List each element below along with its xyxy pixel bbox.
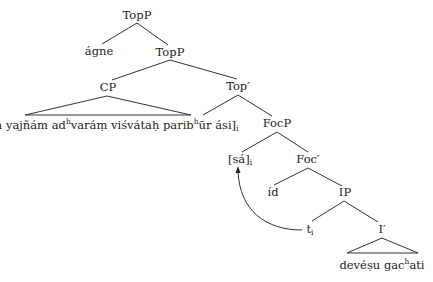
tree-edges: [0, 0, 433, 282]
edge-focp-sa: [242, 132, 277, 152]
edge-topbar-cpcontent: [203, 95, 238, 115]
edge-focp-focbar: [277, 132, 308, 152]
node-ip: IP: [339, 187, 351, 199]
node-id: íd: [267, 187, 278, 199]
arrowhead-icon: [236, 166, 241, 173]
cp-content-index: i: [236, 124, 238, 133]
node-sa: [sá]i: [228, 154, 252, 167]
edge-focbar-id: [274, 168, 308, 185]
edge-topp-agne: [102, 23, 137, 44]
sa-text: [sá]: [228, 152, 250, 166]
node-agne: ágne: [85, 46, 113, 58]
node-top-bar: Top′: [226, 81, 250, 93]
ibar-triangle: [347, 238, 418, 253]
movement-arrow: [238, 172, 302, 230]
edge-topp-cp: [112, 60, 170, 80]
edge-topp-topbar: [170, 60, 237, 79]
syntax-tree-diagram: TopP ágne TopP CP [yáṃ yajñám adhvaráṃ v…: [0, 0, 433, 282]
edge-focbar-ip: [308, 168, 342, 186]
edge-topbar-focp: [238, 95, 272, 116]
node-topp-inner: TopP: [156, 47, 185, 59]
edge-ip-trace: [312, 201, 344, 221]
edge-topp-topp: [137, 23, 168, 45]
node-focp: FocP: [263, 118, 291, 130]
i-content-part: devéṣu gac: [339, 258, 404, 272]
node-foc-bar: Foc′: [296, 154, 319, 166]
i-content-part: ati: [409, 258, 424, 272]
node-i-bar: I′: [378, 224, 385, 236]
node-trace: ti: [306, 224, 313, 237]
node-topp-root: TopP: [123, 10, 152, 22]
edge-ip-ibar: [344, 201, 378, 222]
node-cp: CP: [100, 82, 117, 94]
node-cp-content: [yáṃ yajñám adhvaráṃ viśvátaḥ paribhūr á…: [0, 118, 238, 133]
cp-content-part: ūr ási]: [199, 118, 236, 132]
cp-triangle: [25, 96, 191, 115]
cp-content-part: varáṃ viśvátaḥ parib: [71, 118, 194, 132]
trace-index: i: [311, 228, 313, 237]
sa-index: i: [250, 158, 252, 167]
node-i-content: devéṣu gachati: [339, 258, 424, 272]
cp-content-part: [yáṃ yajñám ad: [0, 118, 66, 132]
